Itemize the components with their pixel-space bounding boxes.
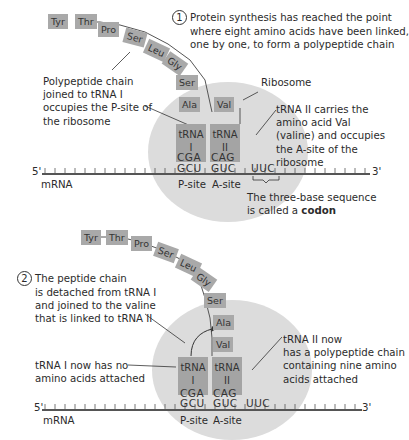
next-codon-panel2: UUC [246,398,270,409]
amino-acid-val-2: Val [213,337,233,352]
three-prime-2: 3' [362,401,371,414]
amino-acid-tyr-2: Tyr [81,230,101,245]
label-trna1-empty: tRNA I now has no amino acids attached [35,359,145,385]
step-2-caption: 2The peptide chain is detached from tRNA… [17,271,156,326]
five-prime-2: 5' [34,401,43,414]
codon-1-panel2: GCU [180,398,205,409]
mrna-label-2: mRNA [43,414,75,427]
mrna-strand-2 [42,409,362,411]
a-site-label-2: A-site [213,414,242,427]
label-trna2-nine-aa: tRNA II now has a polypeptide chain cont… [283,333,405,386]
codon-2-panel2: GUC [213,398,238,409]
amino-acid-ser-2b: Ser [204,293,226,308]
step-2-number: 2 [17,271,32,286]
p-site-label-2: P-site [180,414,208,427]
amino-acid-ala-2: Ala [213,315,234,330]
amino-acid-pro-2: Pro [131,236,152,251]
amino-acid-thr-2: Thr [106,230,128,245]
